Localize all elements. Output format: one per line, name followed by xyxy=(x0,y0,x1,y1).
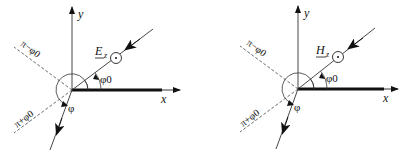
diagram-left: y x E z φ0 φ π−φ0 π+φ0 xyxy=(12,7,180,150)
y-axis-label: y xyxy=(77,7,84,21)
observation-arrow-icon xyxy=(284,117,288,129)
angle-phi0-label: φ0 xyxy=(326,72,338,84)
angle-phi-label: φ xyxy=(294,101,300,113)
observation-arrow-icon xyxy=(58,118,62,130)
dashed-reflection-boundary xyxy=(14,47,72,90)
angle-phi-label: φ xyxy=(68,102,74,114)
field-subscript: z xyxy=(325,50,330,59)
dashed-reflection-boundary xyxy=(240,46,298,89)
diffraction-diagrams: y x E z φ0 φ π−φ0 π+φ0 y x H z φ0 φ π−φ0 xyxy=(0,0,410,154)
x-axis-label: x xyxy=(160,92,167,106)
dashed-upper-label: π−φ0 xyxy=(19,38,43,60)
incident-arrow-icon xyxy=(129,39,140,47)
angle-phi0-label: φ0 xyxy=(100,73,112,85)
incident-arrow-icon xyxy=(352,38,363,46)
dashed-upper-label: π−φ0 xyxy=(245,37,269,59)
diagram-right: y x H z φ0 φ π−φ0 π+φ0 xyxy=(238,6,398,149)
field-label: H xyxy=(315,43,326,57)
field-label: E xyxy=(94,44,103,58)
field-subscript: z xyxy=(103,51,108,60)
y-axis-label: y xyxy=(303,6,310,20)
x-axis-label: x xyxy=(382,91,389,105)
